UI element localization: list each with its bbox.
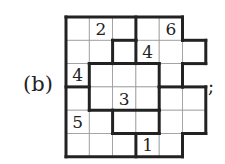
grid-cell (113, 40, 136, 63)
cell-number: 5 (72, 112, 83, 132)
cell-number: 2 (96, 19, 107, 39)
cell-number: 3 (119, 89, 130, 109)
grid-cell (159, 134, 182, 157)
grid-cell (66, 134, 89, 157)
grid-cell (136, 87, 159, 110)
grid-cell (89, 110, 112, 133)
grid-cell (113, 64, 136, 87)
grid-cell (66, 40, 89, 63)
grid-cell (136, 110, 159, 133)
cell-number: 6 (165, 19, 176, 39)
cell-number: 1 (142, 135, 153, 155)
grid-cell (136, 17, 159, 40)
grid-cell (183, 110, 206, 133)
grid-cell (89, 87, 112, 110)
grid-cell (159, 64, 182, 87)
grid-cell (159, 87, 182, 110)
grid-cell (89, 64, 112, 87)
grid-cell (113, 134, 136, 157)
grid-cell (159, 110, 182, 133)
grid-cell (113, 110, 136, 133)
cell-number: 4 (72, 65, 83, 85)
grid-cell (113, 17, 136, 40)
grid-cell (66, 17, 89, 40)
grid-cell (183, 87, 206, 110)
grid-cell (136, 64, 159, 87)
grid-cell (66, 87, 89, 110)
puzzle-grid: 2644351 (0, 0, 225, 164)
grid-cell (159, 40, 182, 63)
grid-cell (89, 134, 112, 157)
grid-cell (89, 40, 112, 63)
cell-number: 4 (142, 42, 153, 62)
grid-cell (183, 40, 206, 63)
